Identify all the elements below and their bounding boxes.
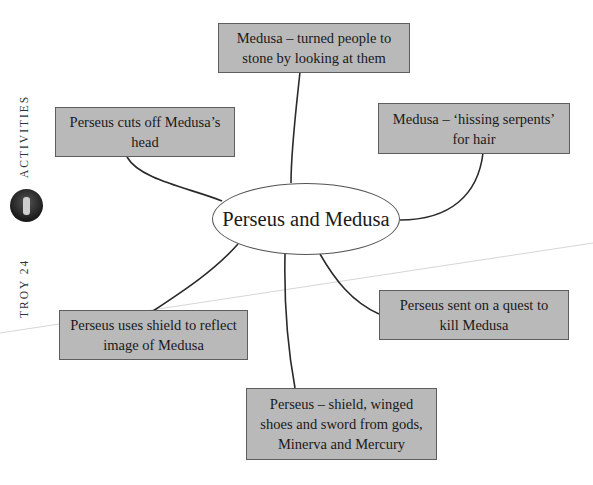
- node-text-line: Minerva and Mercury: [260, 434, 422, 454]
- node-text-line: image of Medusa: [70, 335, 237, 355]
- connector-left: [153, 244, 238, 311]
- central-topic-label: Perseus and Medusa: [222, 208, 389, 231]
- series-label: TROY 24: [18, 259, 30, 318]
- node-text-line: shoes and sword from gods,: [260, 414, 422, 434]
- node-text-line: kill Medusa: [400, 315, 549, 335]
- node-text-line: for hair: [393, 129, 555, 149]
- connector-right: [320, 254, 379, 314]
- node-text-line: Medusa – turned people to: [237, 28, 392, 48]
- node-text-line: Perseus uses shield to reflect: [70, 315, 237, 335]
- node-right: Perseus sent on a quest to kill Medusa: [379, 290, 569, 340]
- node-left: Perseus uses shield to reflect image of …: [59, 310, 248, 360]
- connector-top: [291, 72, 300, 183]
- node-text-line: stone by looking at them: [237, 48, 392, 68]
- connector-top-left: [127, 157, 222, 201]
- connector-bottom: [285, 254, 295, 388]
- section-label: ACTIVITIES: [18, 95, 30, 178]
- node-top-right: Medusa – ‘hissing serpents’ for hair: [378, 103, 570, 154]
- node-bottom: Perseus – shield, winged shoes and sword…: [246, 388, 437, 460]
- central-topic: Perseus and Medusa: [212, 183, 400, 255]
- node-text-line: Perseus cuts off Medusa’s: [70, 112, 221, 132]
- node-top: Medusa – turned people to stone by looki…: [218, 23, 410, 73]
- node-top-left: Perseus cuts off Medusa’s head: [55, 107, 235, 157]
- node-text-line: Medusa – ‘hissing serpents’: [393, 109, 555, 129]
- node-text-line: head: [70, 132, 221, 152]
- node-text-line: Perseus sent on a quest to: [400, 295, 549, 315]
- connector-top-right: [400, 153, 483, 220]
- sidebar: ACTIVITIES TROY 24: [0, 60, 44, 320]
- troy-emblem-icon: [10, 189, 43, 222]
- node-text-line: Perseus – shield, winged: [260, 394, 422, 414]
